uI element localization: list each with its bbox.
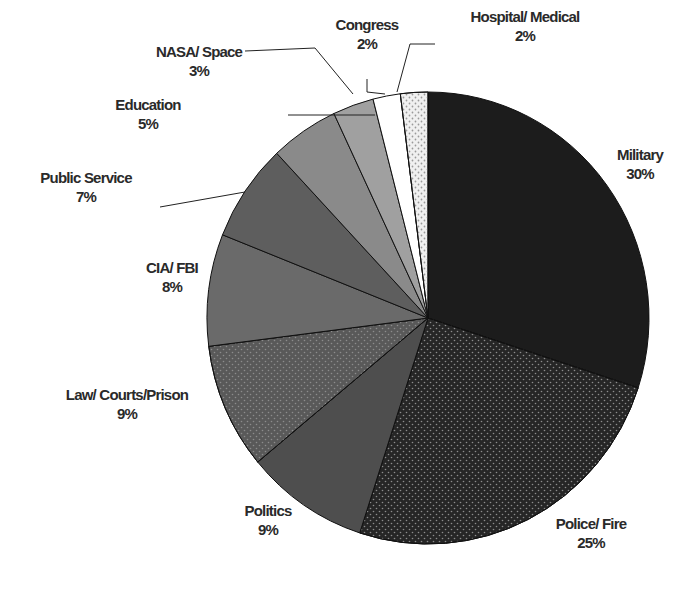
data-label-category: Hospital/ Medical	[471, 7, 580, 26]
data-label-nasa-space: NASA/ Space3%	[156, 42, 242, 80]
data-label-percent: 3%	[156, 61, 242, 80]
data-label-percent: 25%	[556, 533, 626, 552]
data-label-category: Police/ Fire	[556, 514, 626, 533]
data-label-percent: 30%	[617, 164, 663, 183]
data-label-category: Law/ Courts/Prison	[66, 385, 188, 404]
data-label-percent: 9%	[66, 404, 188, 423]
leader-line	[245, 48, 353, 94]
data-label-politics: Politics9%	[245, 501, 292, 539]
data-label-hospital-medical: Hospital/ Medical2%	[471, 7, 580, 45]
data-label-cia-fbi: CIA/ FBI8%	[146, 258, 198, 296]
data-label-education: Education5%	[115, 95, 180, 133]
data-label-category: Public Service	[40, 168, 131, 187]
data-label-police-fire: Police/ Fire25%	[556, 514, 626, 552]
data-label-category: NASA/ Space	[156, 42, 242, 61]
data-label-category: Politics	[245, 501, 292, 520]
data-label-military: Military30%	[617, 145, 663, 183]
data-label-category: Education	[115, 95, 180, 114]
data-label-public-service: Public Service7%	[40, 168, 131, 206]
pie-slices	[207, 92, 649, 544]
leader-line	[397, 44, 435, 92]
data-label-category: CIA/ FBI	[146, 258, 198, 277]
data-label-law-courts-prison: Law/ Courts/Prison9%	[66, 385, 188, 423]
leader-line	[160, 192, 245, 207]
data-label-percent: 2%	[336, 34, 399, 53]
data-label-percent: 8%	[146, 277, 198, 296]
leader-line	[367, 79, 385, 94]
data-label-congress: Congress2%	[336, 15, 399, 53]
data-label-category: Congress	[336, 15, 399, 34]
data-label-percent: 5%	[115, 114, 180, 133]
data-label-percent: 9%	[245, 520, 292, 539]
pie-chart	[0, 0, 693, 592]
data-label-percent: 2%	[471, 26, 580, 45]
data-label-percent: 7%	[40, 187, 131, 206]
data-label-category: Military	[617, 145, 663, 164]
